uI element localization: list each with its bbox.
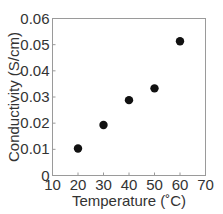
y-tick-label: 0.06	[20, 10, 49, 27]
y-tick-label: 0.04	[20, 62, 49, 79]
x-tick-label: 40	[121, 176, 138, 193]
y-tick-label: 0.02	[20, 114, 49, 131]
data-point-marker	[176, 37, 184, 45]
y-tick-label: 0.01	[20, 140, 49, 157]
x-tick-label: 50	[146, 176, 163, 193]
x-tick-label: 70	[197, 176, 214, 193]
y-tick-label: 0.03	[20, 88, 49, 105]
data-points	[74, 37, 184, 153]
x-tick-label: 10	[44, 176, 61, 193]
y-tick-label: 0.05	[20, 36, 49, 53]
data-point-marker	[125, 96, 133, 104]
y-axis-label: Conductivity (S/cm)	[5, 32, 22, 162]
y-axis-ticks: 00.010.020.030.040.050.06	[20, 10, 55, 184]
x-tick-label: 60	[172, 176, 189, 193]
x-axis-label: Temperature (˚C)	[72, 192, 186, 209]
x-tick-label: 20	[70, 176, 87, 193]
data-point-marker	[150, 84, 158, 92]
data-point-marker	[74, 144, 82, 152]
x-tick-label: 30	[95, 176, 112, 193]
scatter-chart: 00.010.020.030.040.050.06 10203040506070…	[0, 0, 223, 214]
data-point-marker	[99, 121, 107, 129]
